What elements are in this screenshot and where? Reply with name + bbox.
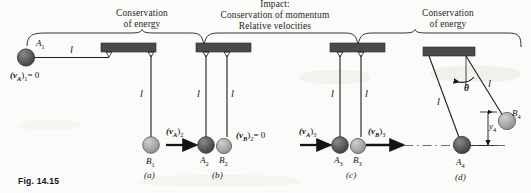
cord-d-left	[429, 56, 460, 140]
pivot-a-left	[106, 52, 112, 57]
label-velocity-b2: (vB)2= 0	[236, 130, 265, 142]
ball-b1	[143, 137, 160, 154]
heading-line: Relative velocities	[190, 21, 360, 32]
label-ball-a2: A2	[200, 155, 209, 167]
heading-conservation-energy-a: Conservation of energy	[87, 8, 197, 30]
label-ball-a1-sub: 1	[42, 43, 45, 50]
brace-conservation-energy-d	[403, 30, 521, 48]
angle-arc-theta	[459, 77, 474, 82]
label-ball-b4: B4	[512, 108, 521, 120]
label-ball-a4-sub: 4	[462, 162, 465, 169]
label-ball-b1: B1	[146, 156, 155, 168]
ball-a1	[17, 49, 34, 66]
label-ball-b3-sub: 3	[359, 160, 362, 167]
velocity-b3-open: (v	[368, 126, 375, 136]
label-ball-a1: A1	[36, 38, 45, 50]
velocity-b3-state-sub: 3	[382, 131, 385, 138]
ball-b3	[350, 138, 365, 153]
label-ball-b1-sub: 1	[152, 161, 155, 168]
figure-number: Fig. 14.15	[18, 176, 59, 186]
caption-a: (a)	[144, 170, 155, 180]
velocity-a1-value: = 0	[27, 70, 39, 80]
caption-b: (b)	[212, 170, 223, 180]
length-label-d-right: l	[488, 78, 491, 89]
figure-14-15: Conservation of energy Impact: Conservat…	[0, 0, 531, 193]
support-block-a	[101, 43, 156, 52]
label-ball-a4: A4	[456, 157, 465, 169]
label-angle-theta: θ	[464, 83, 469, 93]
label-ball-a3-sub: 3	[340, 160, 343, 167]
support-block-c	[330, 43, 385, 52]
cord-d-right	[466, 56, 503, 116]
heading-line: of energy	[393, 19, 503, 30]
velocity-a2-state-sub: 2	[180, 131, 183, 138]
label-ball-a2-sub: 2	[206, 160, 209, 167]
velocity-a2-open: (v	[166, 126, 173, 136]
heading-line: of energy	[87, 19, 197, 30]
heading-line: Conservation of momentum	[190, 10, 360, 21]
heading-conservation-energy-d: Conservation of energy	[393, 8, 503, 30]
heading-line: Impact:	[190, 0, 360, 10]
velocity-a3-open: (v	[299, 126, 306, 136]
length-label-a-vertical: l	[140, 88, 143, 99]
length-label-d-left: l	[437, 96, 440, 107]
length-label-b-left: l	[197, 88, 200, 99]
label-ball-b2-sub: 2	[225, 160, 228, 167]
heading-impact: Impact: Conservation of momentum Relativ…	[190, 0, 360, 32]
velocity-b2-value: = 0	[253, 130, 265, 140]
length-label-c-left: l	[331, 88, 334, 99]
label-ball-a3: A3	[334, 155, 343, 167]
velocity-b2-open: (v	[236, 130, 243, 140]
label-velocity-a3: (vA)3	[299, 126, 316, 138]
label-velocity-a2: (vA)2	[166, 126, 183, 138]
ball-a4	[453, 136, 470, 153]
label-velocity-a1: (vA)1= 0	[10, 70, 39, 82]
velocity-a1-open: (v	[10, 70, 17, 80]
label-velocity-b3: (vB)3	[368, 126, 385, 138]
ball-a3	[332, 137, 349, 154]
length-label-b-right: l	[231, 88, 234, 99]
heading-line: Conservation	[393, 8, 503, 19]
support-block-d	[423, 47, 475, 56]
length-label-c-right: l	[365, 88, 368, 99]
support-block-b	[196, 43, 251, 52]
label-ball-b2: B2	[219, 155, 228, 167]
label-ball-b4-sub: 4	[518, 113, 521, 120]
label-height-y4: y4	[489, 121, 496, 133]
label-height-sub: 4	[493, 126, 496, 133]
label-ball-b3: B3	[353, 155, 362, 167]
caption-d: (d)	[455, 172, 466, 182]
length-label-a-horizontal: l	[70, 44, 73, 55]
heading-line: Conservation	[87, 8, 197, 19]
ball-b2	[216, 138, 231, 153]
velocity-a3-state-sub: 3	[313, 131, 316, 138]
ball-a2	[198, 137, 215, 154]
caption-c: (c)	[346, 170, 356, 180]
